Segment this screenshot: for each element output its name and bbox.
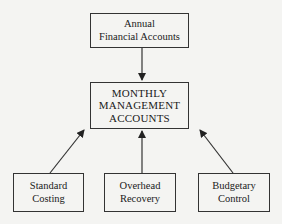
box-line: Financial Accounts	[99, 31, 180, 43]
arrow-left-to-center	[50, 130, 84, 173]
overhead-recovery-box: Overhead Recovery	[104, 173, 176, 212]
standard-costing-box: Standard Costing	[13, 173, 84, 212]
box-line: Budgetary	[212, 180, 256, 192]
box-line: Control	[218, 193, 250, 205]
box-line: MONTHLY	[112, 87, 167, 100]
box-line: Annual	[124, 18, 155, 30]
box-line: Overhead	[120, 180, 161, 192]
box-line: Recovery	[120, 193, 160, 205]
box-line: MANAGEMENT	[99, 99, 180, 112]
box-line: ACCOUNTS	[109, 112, 170, 125]
budgetary-control-box: Budgetary Control	[198, 173, 270, 212]
annual-financial-accounts-box: Annual Financial Accounts	[90, 13, 189, 48]
box-line: Standard	[30, 180, 67, 192]
box-line: Costing	[32, 193, 65, 205]
arrow-right-to-center	[200, 130, 233, 173]
monthly-management-accounts-box: MONTHLY MANAGEMENT ACCOUNTS	[90, 82, 189, 129]
